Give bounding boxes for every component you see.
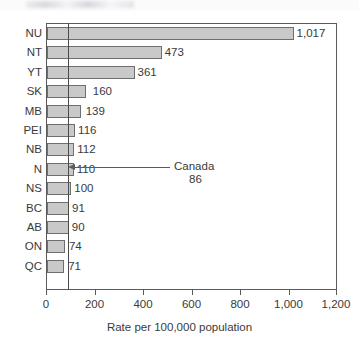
- canada-annotation-leader-line: [74, 167, 170, 168]
- xtick-mark-200: [95, 290, 96, 295]
- bar-ab: [47, 221, 69, 234]
- bar-row: 74: [47, 237, 336, 256]
- category-label-pei: PEI: [0, 123, 42, 137]
- xtick-label-200: 200: [85, 297, 104, 311]
- bar-qc: [47, 260, 64, 273]
- bar-value-sk: 160: [93, 84, 112, 98]
- bar-value-qc: 71: [68, 259, 81, 273]
- xtick-mark-600: [192, 290, 193, 295]
- bar-row: 160: [47, 82, 336, 101]
- canada-annotation-value: 86: [189, 173, 202, 186]
- scan-artifact-blur: [26, 1, 134, 8]
- category-label-ab: AB: [0, 220, 42, 234]
- bar-chart: NU NT YT SK MB PEI NB N NS BC AB ON QC 1…: [0, 0, 359, 348]
- plot-area: 1,017 473 361 160 139 116: [46, 23, 337, 290]
- xtick-label-1000: 1,000: [274, 297, 303, 311]
- category-label-ns: NS: [0, 181, 42, 195]
- category-label-on: ON: [0, 239, 42, 253]
- bar-pei: [47, 124, 75, 137]
- bar-row: 361: [47, 63, 336, 82]
- bar-value-ns: 100: [74, 181, 93, 195]
- category-label-yt: YT: [0, 65, 42, 79]
- bar-sk: [47, 85, 86, 98]
- bar-row: 112: [47, 140, 336, 159]
- xtick-label-1200: 1,200: [322, 297, 351, 311]
- bar-value-nt: 473: [165, 45, 184, 59]
- category-label-mb: MB: [0, 104, 42, 118]
- bar-value-mb: 139: [86, 104, 105, 118]
- xtick-mark-400: [143, 290, 144, 295]
- bar-row: 139: [47, 102, 336, 121]
- bar-row: 91: [47, 199, 336, 218]
- category-label-nt: NT: [0, 45, 42, 59]
- bar-value-bc: 91: [72, 201, 85, 215]
- bar-row: 1,017: [47, 24, 336, 43]
- bar-value-on: 74: [69, 239, 82, 253]
- canada-reference-line: [68, 23, 69, 290]
- bar-row: 90: [47, 218, 336, 237]
- bar-row: 473: [47, 43, 336, 62]
- bar-value-pei: 116: [78, 123, 96, 137]
- category-label-sk: SK: [0, 84, 42, 98]
- bar-nu: [47, 27, 294, 40]
- xtick-mark-1200: [336, 290, 337, 295]
- xtick-mark-0: [46, 290, 47, 295]
- xtick-label-400: 400: [133, 297, 152, 311]
- xtick-label-600: 600: [182, 297, 201, 311]
- bar-nt: [47, 46, 162, 59]
- bar-value-nu: 1,017: [297, 26, 326, 40]
- bar-value-yt: 361: [138, 65, 157, 79]
- bar-value-n: 110: [77, 162, 95, 176]
- bar-value-nb: 112: [77, 142, 95, 156]
- bar-mb: [47, 105, 81, 118]
- category-label-n: N: [0, 162, 42, 176]
- bar-row: 71: [47, 257, 336, 276]
- bar-value-ab: 90: [72, 220, 85, 234]
- category-label-nu: NU: [0, 26, 42, 40]
- plot-inner: 1,017 473 361 160 139 116: [47, 24, 336, 289]
- category-label-qc: QC: [0, 259, 42, 273]
- xtick-mark-1000: [289, 290, 290, 295]
- bar-yt: [47, 66, 135, 79]
- xtick-mark-800: [240, 290, 241, 295]
- x-axis-title: Rate per 100,000 population: [0, 320, 359, 334]
- bar-nb: [47, 143, 74, 156]
- bar-bc: [47, 202, 69, 215]
- category-label-bc: BC: [0, 201, 42, 215]
- category-label-nb: NB: [0, 142, 42, 156]
- xtick-label-800: 800: [230, 297, 249, 311]
- canada-annotation-label: Canada: [174, 160, 214, 173]
- bar-row: 116: [47, 121, 336, 140]
- xtick-label-0: 0: [43, 297, 49, 311]
- bar-on: [47, 240, 65, 253]
